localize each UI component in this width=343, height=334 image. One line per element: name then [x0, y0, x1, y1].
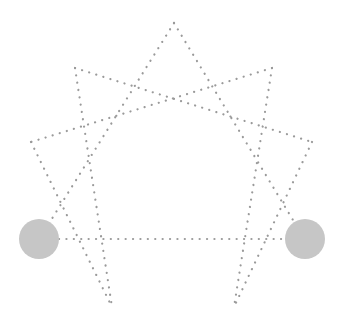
dotted-edge	[31, 68, 272, 142]
nodes	[19, 219, 325, 259]
left-node	[19, 219, 59, 259]
dotted-edge	[234, 68, 272, 307]
dotted-edges	[31, 23, 312, 307]
dotted-edge	[48, 23, 174, 225]
dotted-edge	[75, 68, 312, 142]
enneagram-diagram	[0, 0, 343, 334]
dotted-edge	[75, 68, 112, 307]
right-node	[285, 219, 325, 259]
dotted-edge	[174, 23, 296, 225]
